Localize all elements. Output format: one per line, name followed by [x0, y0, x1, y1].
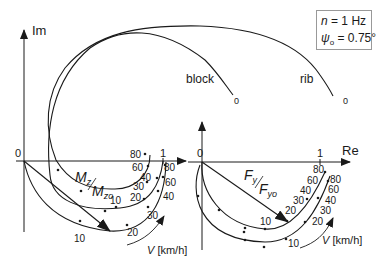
rib-label: rib [300, 72, 314, 86]
right-speed-label: V [km/h] [322, 234, 362, 246]
frequency-param: n = 1 Hz [321, 13, 367, 30]
svg-text:30: 30 [133, 181, 145, 192]
svg-text:20: 20 [127, 227, 139, 238]
left-origin-label: 0 [15, 147, 21, 159]
svg-text:80: 80 [130, 149, 142, 160]
block-end-label: 0 [234, 96, 239, 106]
svg-text:10: 10 [288, 238, 300, 249]
svg-text:80: 80 [164, 162, 176, 173]
left-inner-speed-labels: 80 60 40 30 20 10 [110, 149, 152, 206]
svg-text:Mzo: Mzo [92, 183, 113, 201]
im-axis-label: Im [32, 23, 46, 38]
slip-angle-param: ψo = 0.75° [321, 30, 367, 51]
svg-text:20: 20 [312, 216, 324, 227]
svg-text:20: 20 [130, 192, 142, 203]
svg-text:10: 10 [74, 233, 86, 244]
svg-text:30: 30 [320, 205, 332, 216]
right-origin-label: 0 [197, 147, 203, 159]
left-unit-label: 1 [160, 147, 166, 159]
rib-end-label: 0 [343, 96, 348, 106]
right-unit-label: 1 [317, 147, 323, 159]
re-axis-label: Re [342, 143, 359, 158]
mz-ratio-label: Mz Mzo [75, 169, 113, 201]
svg-text:60: 60 [328, 184, 340, 195]
left-speed-label: V [km/h] [147, 244, 187, 256]
svg-text:Mz: Mz [75, 169, 92, 187]
svg-text:80: 80 [313, 164, 325, 175]
svg-text:30: 30 [147, 210, 159, 221]
svg-text:20: 20 [285, 205, 297, 216]
block-label: block [186, 72, 215, 86]
svg-text:40: 40 [163, 191, 175, 202]
svg-text:10: 10 [260, 216, 272, 227]
left-outer-speed-labels: 80 60 40 30 20 10 [74, 162, 177, 244]
left-axes [16, 30, 186, 232]
svg-text:60: 60 [165, 177, 177, 188]
svg-text:Fy: Fy [244, 167, 258, 185]
svg-text:Fyo: Fyo [259, 181, 277, 199]
parameter-box: n = 1 Hz ψo = 0.75° [316, 10, 372, 50]
